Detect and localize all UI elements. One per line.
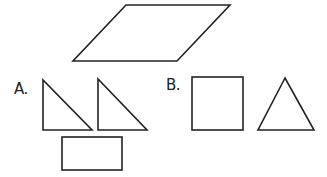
- figure-canvas: [0, 0, 327, 177]
- option-a-rectangle: [62, 137, 122, 170]
- option-a-triangle-2: [98, 79, 147, 130]
- option-a-label: A.: [14, 82, 28, 97]
- option-b-label: B.: [166, 78, 180, 93]
- option-a-triangle-1: [43, 80, 92, 130]
- target-parallelogram: [73, 5, 230, 61]
- option-b-square: [192, 77, 243, 130]
- option-b-triangle: [258, 78, 314, 130]
